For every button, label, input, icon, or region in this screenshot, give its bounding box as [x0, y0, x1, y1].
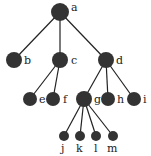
node-j — [59, 131, 69, 141]
node-label-c: c — [71, 54, 77, 67]
node-k — [75, 131, 85, 141]
edge-a-d — [60, 12, 106, 60]
edge-a-b — [14, 12, 60, 60]
node-label-a: a — [71, 1, 78, 14]
node-a — [51, 3, 69, 21]
node-label-f: f — [63, 93, 68, 106]
node-c — [52, 52, 68, 68]
node-label-i: i — [143, 93, 147, 106]
node-m — [108, 131, 118, 141]
edges — [14, 12, 134, 136]
node-label-j: j — [59, 142, 64, 155]
node-b — [6, 52, 22, 68]
node-label-m: m — [107, 142, 118, 155]
tree-diagram: abcdefghijklm — [0, 0, 151, 156]
node-g — [76, 91, 92, 107]
node-label-d: d — [116, 54, 123, 67]
node-label-g: g — [94, 93, 101, 106]
node-e — [23, 92, 37, 106]
node-l — [91, 131, 101, 141]
node-d — [98, 52, 114, 68]
node-h — [101, 92, 115, 106]
node-label-h: h — [117, 93, 124, 106]
node-label-e: e — [39, 93, 46, 106]
nodes — [6, 3, 141, 141]
labels: abcdefghijklm — [24, 1, 147, 155]
node-i — [127, 92, 141, 106]
node-label-l: l — [94, 142, 98, 155]
node-f — [46, 92, 60, 106]
node-label-k: k — [76, 142, 83, 155]
node-label-b: b — [24, 54, 31, 67]
